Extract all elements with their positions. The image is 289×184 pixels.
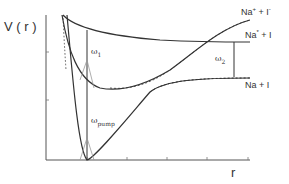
y-axis-label: V ( r ) <box>4 19 37 34</box>
omega2-label: ω2 <box>215 54 225 65</box>
ground-state-asymptote-dashed <box>150 78 250 92</box>
excited-state-label: Na* + I <box>245 29 272 40</box>
x-axis-label: r <box>231 165 235 180</box>
excited-state-curve <box>63 15 250 42</box>
ionic-state-label: Na+ + I- <box>241 6 271 17</box>
omega-pump-label: ωpump <box>91 116 115 127</box>
potential-energy-diagram <box>0 0 289 184</box>
ground-state-label: Na + I <box>245 80 269 90</box>
omega1-label: ω1 <box>91 47 101 58</box>
